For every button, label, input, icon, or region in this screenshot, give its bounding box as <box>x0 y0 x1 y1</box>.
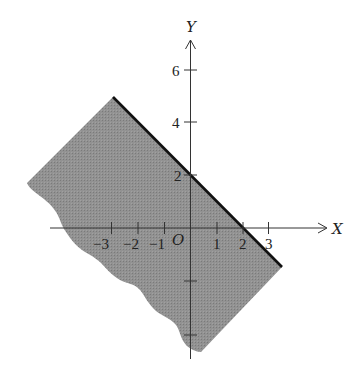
x-tick-label-1: 1 <box>213 236 221 252</box>
origin-label: O <box>172 231 184 249</box>
inequality-graph: Y X O −3 −2 −1 1 2 3 6 4 2 <box>0 0 362 370</box>
x-tick-label-neg1: −1 <box>149 236 165 252</box>
y-axis-label: Y <box>186 18 198 36</box>
y-tick-label-4: 4 <box>172 115 180 131</box>
y-tick-label-6: 6 <box>172 63 180 79</box>
shaded-region <box>27 97 282 352</box>
x-axis-label: X <box>331 220 344 238</box>
y-tick-label-2: 2 <box>174 168 182 184</box>
x-tick-label-neg2: −2 <box>123 236 139 252</box>
x-tick-label-3: 3 <box>265 236 273 252</box>
x-tick-label-neg3: −3 <box>93 236 109 252</box>
x-tick-label-2: 2 <box>239 236 247 252</box>
